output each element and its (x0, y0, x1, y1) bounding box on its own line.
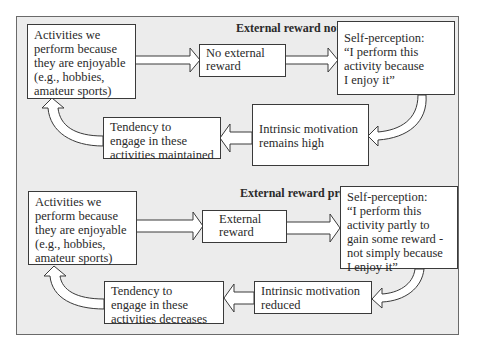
self-perception-box: Self-perception: “I perform this activit… (340, 186, 458, 269)
arrow-right-icon (136, 212, 203, 240)
tendency-box: Tendency to engage in these activities m… (103, 117, 221, 159)
activities-box: Activities we perform because they are e… (27, 24, 136, 99)
tendency-box: Tendency to engage in these activities d… (104, 281, 224, 324)
arrow-right-icon (285, 48, 338, 72)
external-reward-box: External reward (202, 210, 287, 243)
arrow-right-icon (286, 214, 340, 242)
no-external-reward-box: No external reward (199, 44, 286, 77)
curved-arrow-up-icon (42, 98, 103, 146)
intrinsic-motivation-box: Intrinsic motivation remains high (252, 104, 369, 166)
arrow-left-icon (220, 124, 252, 152)
arrow-right-icon (135, 48, 200, 72)
curved-arrow-up-icon (44, 266, 104, 309)
curved-arrow-down-icon (368, 95, 426, 146)
activities-box: Activities we perform because they are e… (28, 191, 137, 265)
intrinsic-motivation-box: Intrinsic motivation reduced (254, 281, 372, 314)
self-perception-box: Self-perception: “I perform this activit… (337, 21, 455, 95)
arrow-left-icon (224, 284, 254, 312)
curved-arrow-down-icon (372, 269, 424, 308)
